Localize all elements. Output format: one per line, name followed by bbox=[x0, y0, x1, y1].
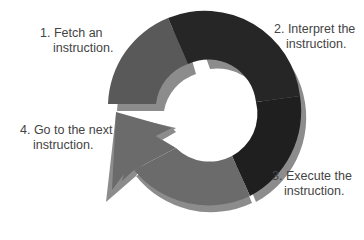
step-2-line1: 2. Interpret the bbox=[274, 22, 355, 36]
step-4-line2: instruction. bbox=[20, 138, 112, 153]
step-1-line1: 1. Fetch an bbox=[40, 26, 103, 40]
step-3-label: 3. Execute the instruction. bbox=[272, 169, 352, 199]
step-3-line1: 3. Execute the bbox=[272, 169, 352, 183]
step-1-line2: instruction. bbox=[40, 41, 113, 56]
step-2-label: 2. Interpret the instruction. bbox=[274, 22, 355, 52]
step-1-label: 1. Fetch an instruction. bbox=[40, 26, 113, 56]
step-2-line2: instruction. bbox=[274, 37, 355, 52]
step-4-line1: 4. Go to the next bbox=[20, 123, 112, 137]
step-3-line2: instruction. bbox=[272, 184, 352, 199]
step-4-label: 4. Go to the next instruction. bbox=[20, 123, 112, 153]
